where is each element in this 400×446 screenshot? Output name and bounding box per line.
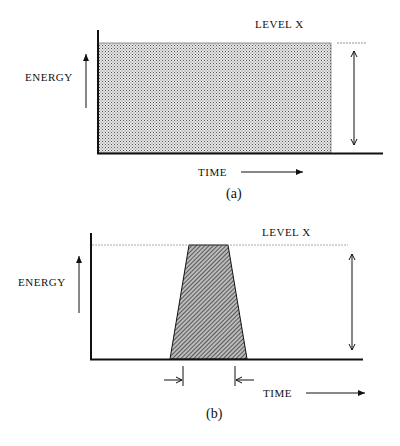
energy-pulse [170,245,247,359]
energy-label-a: ENERGY [25,71,73,83]
energy-block [98,43,331,153]
caption-a: (a) [226,186,242,202]
level-x-label-b: LEVEL X [262,226,311,238]
energy-label-b: ENERGY [18,276,66,288]
caption-b: (b) [206,406,222,422]
time-label-b: TIME [263,387,292,399]
energy-time-diagram [0,0,400,446]
level-x-label-a: LEVEL X [255,18,304,30]
panel-a [86,30,383,172]
time-label-a: TIME [198,166,227,178]
panel-b [79,233,365,393]
